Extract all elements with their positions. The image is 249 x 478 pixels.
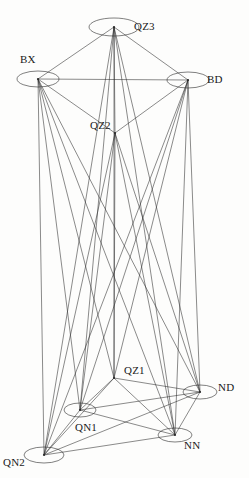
network-diagram-canvas: QZ3BXBDQZ2QZ1NDQN1NNQN2 xyxy=(0,0,249,478)
graph-node-point-qn2[interactable] xyxy=(43,454,45,456)
graph-edge xyxy=(175,80,188,435)
graph-node-point-qz2[interactable] xyxy=(114,132,116,134)
graph-edge xyxy=(38,79,44,455)
graph-edge xyxy=(115,133,175,435)
graph-edge xyxy=(44,392,200,455)
node-label-nd: ND xyxy=(218,382,234,393)
graph-node-point-bd[interactable] xyxy=(187,79,189,81)
graph-edge xyxy=(80,133,115,410)
node-label-qn2: QN2 xyxy=(3,457,25,468)
graph-node-point-nn[interactable] xyxy=(174,434,176,436)
graph-edge xyxy=(38,79,175,435)
node-label-qn1: QN1 xyxy=(75,422,97,433)
graph-node-point-qz3[interactable] xyxy=(113,26,115,28)
network-graph-svg xyxy=(0,0,249,478)
edge-layer xyxy=(38,27,200,455)
node-label-bx: BX xyxy=(20,54,36,65)
graph-node-point-qz1[interactable] xyxy=(113,377,115,379)
node-label-bd: BD xyxy=(207,74,223,85)
graph-edge xyxy=(114,80,188,378)
node-label-qz1: QZ1 xyxy=(124,365,145,376)
graph-node-point-nd[interactable] xyxy=(199,391,201,393)
graph-edge xyxy=(44,435,175,455)
node-label-qz2: QZ2 xyxy=(90,120,111,131)
graph-edge xyxy=(38,79,188,80)
graph-edge xyxy=(80,392,200,410)
graph-node-point-qn1[interactable] xyxy=(79,409,81,411)
graph-edge xyxy=(175,392,200,435)
graph-edge xyxy=(188,80,200,392)
node-label-nn: NN xyxy=(184,440,200,451)
graph-edge xyxy=(80,27,114,410)
graph-edge xyxy=(38,79,200,392)
graph-edge xyxy=(38,79,80,410)
graph-edge xyxy=(115,133,200,392)
node-label-qz3: QZ3 xyxy=(134,21,155,32)
graph-node-point-bx[interactable] xyxy=(37,78,39,80)
